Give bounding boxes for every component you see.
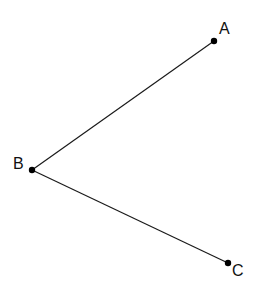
label-a: A	[219, 20, 230, 37]
segment-bc	[32, 170, 228, 263]
segment-ba	[32, 41, 214, 170]
label-c: C	[232, 262, 244, 279]
point-b	[29, 167, 35, 173]
point-a	[211, 38, 217, 44]
point-c	[225, 260, 231, 266]
angle-diagram: A B C	[0, 0, 267, 295]
label-b: B	[13, 155, 24, 172]
